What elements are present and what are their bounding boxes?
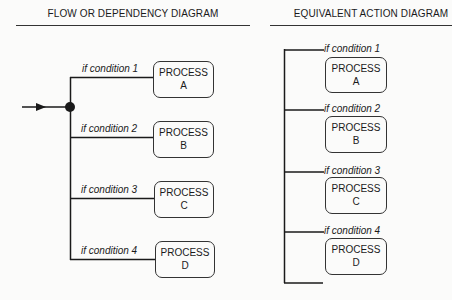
flow-condition-1: if condition 1 [82, 63, 138, 74]
action-condition-3: if condition 3 [324, 165, 380, 176]
flow-title-rule [16, 25, 250, 26]
action-condition-2: if condition 2 [324, 103, 380, 114]
arrow-icon [36, 103, 46, 111]
flow-diagram-title: FLOW OR DEPENDENCY DIAGRAM [16, 8, 250, 19]
flow-process-d: PROCESS D [155, 241, 215, 278]
flow-condition-2: if condition 2 [81, 123, 137, 134]
action-process-a: PROCESS A [325, 57, 387, 93]
flow-condition-3: if condition 3 [81, 184, 137, 195]
action-condition-1: if condition 1 [324, 43, 380, 54]
action-process-d: PROCESS D [325, 238, 387, 275]
action-process-b: PROCESS B [325, 116, 387, 153]
flow-process-b: PROCESS B [153, 121, 214, 158]
flow-condition-4: if condition 4 [81, 245, 137, 256]
action-diagram-title: EQUIVALENT ACTION DIAGRAM [290, 8, 452, 19]
flow-process-c: PROCESS C [154, 181, 214, 218]
action-title-rule [270, 25, 452, 26]
action-condition-4: if condition 4 [324, 225, 380, 236]
action-process-c: PROCESS C [325, 177, 387, 214]
flow-process-a: PROCESS A [153, 61, 214, 98]
